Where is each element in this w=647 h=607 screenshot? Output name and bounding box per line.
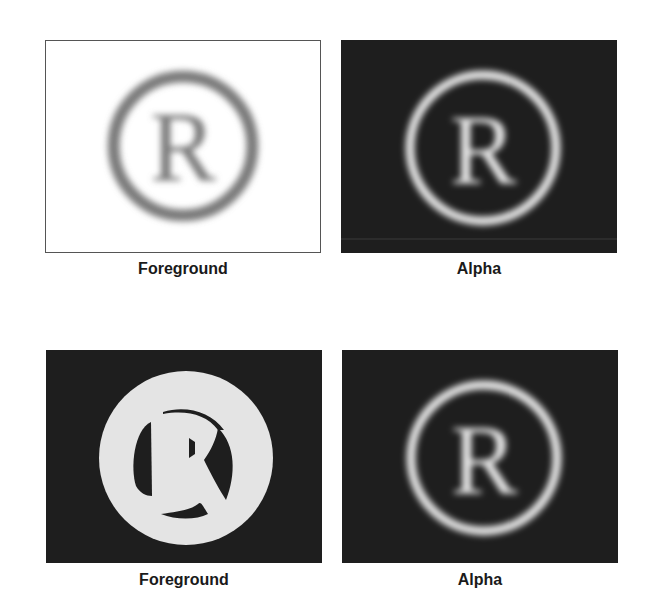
svg-text:R: R: [150, 92, 216, 201]
alpha-image-top: R: [341, 40, 617, 253]
alpha-image-bottom: R: [342, 350, 618, 563]
svg-text:R: R: [450, 94, 517, 205]
registered-symbol-icon: R: [46, 41, 320, 252]
foreground-image-bottom: [46, 350, 322, 563]
svg-text:R: R: [451, 404, 518, 515]
registered-symbol-icon: R: [342, 350, 618, 563]
registered-disc-icon: [46, 350, 322, 563]
registered-symbol-icon: R: [341, 40, 617, 253]
caption-alpha-bottom: Alpha: [342, 571, 618, 589]
caption-alpha-top: Alpha: [341, 260, 617, 278]
foreground-image-top: R: [45, 40, 321, 253]
caption-foreground-top: Foreground: [45, 260, 321, 278]
caption-foreground-bottom: Foreground: [46, 571, 322, 589]
